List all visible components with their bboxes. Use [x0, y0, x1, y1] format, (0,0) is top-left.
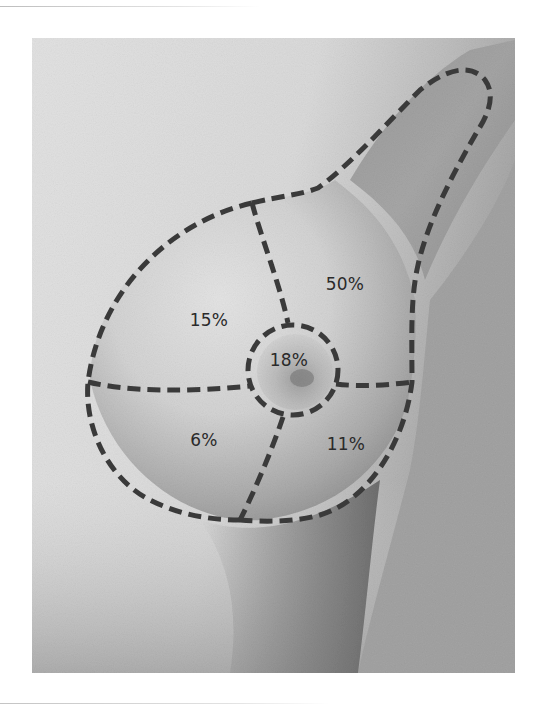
bottom-divider-rule [0, 703, 330, 704]
label-lower-inner-quadrant: 6% [190, 430, 217, 450]
breast-quadrant-figure: 50% 15% 18% 6% 11% [0, 0, 541, 706]
label-upper-inner-quadrant: 15% [190, 310, 228, 330]
label-lower-outer-quadrant: 11% [327, 434, 365, 454]
label-central-areola: 18% [270, 350, 308, 370]
label-upper-outer-quadrant: 50% [326, 274, 364, 294]
